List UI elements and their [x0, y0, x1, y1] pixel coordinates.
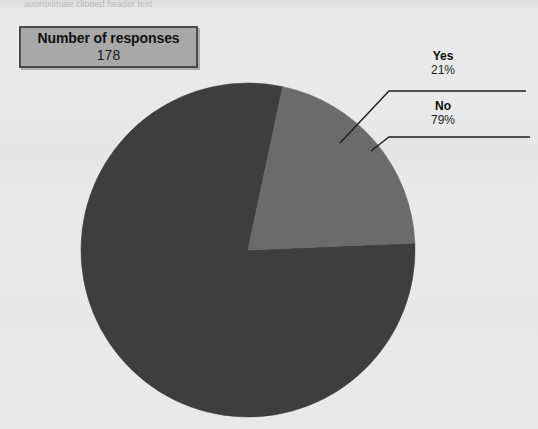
number-of-responses-box: Number of responses 178: [19, 26, 198, 68]
slice-label-yes-percent: 21%: [404, 63, 482, 78]
slice-label-yes: Yes 21%: [404, 49, 482, 78]
slice-label-no-percent: 79%: [404, 113, 482, 128]
leader-line-no: [371, 137, 530, 151]
pie-chart-figure: approximate clipped header text Number o…: [0, 0, 538, 429]
number-of-responses-title: Number of responses: [37, 30, 179, 47]
slice-label-no-name: No: [404, 99, 482, 113]
slice-label-yes-name: Yes: [404, 49, 482, 63]
number-of-responses-value: 178: [97, 47, 120, 64]
slice-label-no: No 79%: [404, 99, 482, 128]
